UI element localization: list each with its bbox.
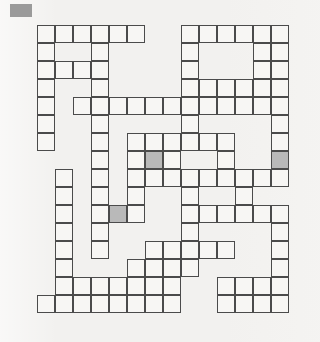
crossword-cell[interactable] [235,97,253,115]
crossword-cell[interactable] [217,169,235,187]
crossword-cell[interactable] [271,97,289,115]
crossword-cell[interactable] [91,43,109,61]
crossword-cell[interactable] [127,97,145,115]
crossword-cell[interactable] [127,295,145,313]
crossword-cell[interactable] [73,25,91,43]
crossword-cell[interactable] [217,151,235,169]
crossword-cell[interactable] [235,277,253,295]
crossword-cell[interactable] [55,259,73,277]
crossword-cell[interactable] [181,187,199,205]
crossword-cell[interactable] [55,223,73,241]
crossword-cell[interactable] [55,277,73,295]
crossword-cell[interactable] [199,169,217,187]
crossword-cell[interactable] [127,187,145,205]
crossword-cell[interactable] [73,97,91,115]
crossword-cell[interactable] [271,43,289,61]
crossword-cell[interactable] [271,205,289,223]
crossword-cell[interactable] [253,277,271,295]
crossword-cell[interactable] [181,205,199,223]
crossword-cell[interactable] [235,79,253,97]
crossword-cell[interactable] [145,169,163,187]
crossword-cell-shaded[interactable] [109,205,127,223]
crossword-cell[interactable] [253,43,271,61]
crossword-cell[interactable] [163,97,181,115]
crossword-cell[interactable] [199,241,217,259]
crossword-cell[interactable] [73,277,91,295]
crossword-cell-shaded[interactable] [271,151,289,169]
crossword-cell[interactable] [181,25,199,43]
crossword-cell[interactable] [271,61,289,79]
crossword-cell[interactable] [271,259,289,277]
crossword-cell[interactable] [253,295,271,313]
crossword-cell[interactable] [145,133,163,151]
crossword-cell[interactable] [217,25,235,43]
crossword-cell[interactable] [145,295,163,313]
crossword-cell[interactable] [271,277,289,295]
crossword-cell[interactable] [55,169,73,187]
crossword-cell[interactable] [145,277,163,295]
crossword-cell[interactable] [217,133,235,151]
crossword-cell[interactable] [127,259,145,277]
crossword-cell[interactable] [109,97,127,115]
crossword-cell[interactable] [271,169,289,187]
crossword-cell[interactable] [109,277,127,295]
crossword-cell[interactable] [235,187,253,205]
crossword-cell[interactable] [235,205,253,223]
crossword-cell[interactable] [199,205,217,223]
crossword-cell[interactable] [163,133,181,151]
crossword-cell[interactable] [91,169,109,187]
crossword-cell[interactable] [181,169,199,187]
crossword-cell[interactable] [235,25,253,43]
crossword-cell[interactable] [127,277,145,295]
crossword-cell[interactable] [127,169,145,187]
crossword-cell-shaded[interactable] [145,151,163,169]
crossword-cell[interactable] [145,259,163,277]
crossword-cell[interactable] [37,79,55,97]
crossword-cell[interactable] [55,205,73,223]
crossword-cell[interactable] [91,97,109,115]
crossword-cell[interactable] [91,79,109,97]
crossword-cell[interactable] [217,97,235,115]
crossword-cell[interactable] [181,259,199,277]
crossword-cell[interactable] [199,97,217,115]
crossword-cell[interactable] [181,61,199,79]
crossword-cell[interactable] [55,295,73,313]
crossword-cell[interactable] [271,133,289,151]
crossword-cell[interactable] [55,61,73,79]
crossword-cell[interactable] [109,295,127,313]
crossword-cell[interactable] [163,295,181,313]
crossword-cell[interactable] [37,115,55,133]
crossword-cell[interactable] [235,295,253,313]
crossword-cell[interactable] [271,79,289,97]
crossword-cell[interactable] [271,25,289,43]
crossword-cell[interactable] [109,25,127,43]
crossword-cell[interactable] [127,133,145,151]
crossword-cell[interactable] [253,205,271,223]
crossword-cell[interactable] [217,241,235,259]
crossword-cell[interactable] [199,79,217,97]
crossword-cell[interactable] [217,79,235,97]
crossword-cell[interactable] [91,151,109,169]
crossword-cell[interactable] [91,277,109,295]
crossword-cell[interactable] [253,25,271,43]
crossword-cell[interactable] [271,223,289,241]
crossword-cell[interactable] [37,25,55,43]
crossword-cell[interactable] [271,115,289,133]
crossword-cell[interactable] [37,133,55,151]
crossword-cell[interactable] [163,169,181,187]
crossword-cell[interactable] [199,25,217,43]
crossword-cell[interactable] [181,97,199,115]
crossword-cell[interactable] [55,241,73,259]
crossword-cell[interactable] [91,223,109,241]
crossword-cell[interactable] [91,187,109,205]
crossword-cell[interactable] [145,241,163,259]
crossword-cell[interactable] [91,241,109,259]
crossword-cell[interactable] [253,169,271,187]
crossword-cell[interactable] [91,61,109,79]
crossword-cell[interactable] [199,133,217,151]
crossword-grid[interactable] [37,25,289,313]
crossword-cell[interactable] [181,115,199,133]
crossword-cell[interactable] [127,205,145,223]
crossword-cell[interactable] [127,25,145,43]
crossword-cell[interactable] [271,241,289,259]
